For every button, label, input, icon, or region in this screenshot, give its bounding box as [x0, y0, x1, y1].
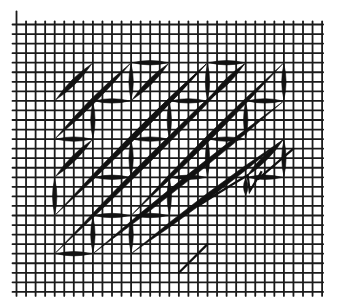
short-diagonal-stitch — [179, 244, 208, 273]
horizontal-stitch — [133, 137, 168, 141]
vertical-stitch — [282, 64, 286, 99]
horizontal-stitch — [56, 252, 91, 256]
stitch-layer — [53, 61, 294, 273]
horizontal-stitch — [94, 175, 129, 179]
stitch-diagram — [0, 0, 337, 307]
vertical-stitch — [91, 217, 95, 252]
horizontal-stitch — [171, 99, 206, 103]
vertical-stitch — [244, 179, 248, 195]
vertical-stitch — [129, 64, 133, 99]
horizontal-stitch — [247, 99, 282, 103]
vertical-stitch — [129, 141, 133, 176]
vertical-stitch — [167, 102, 171, 137]
horizontal-stitch — [56, 137, 91, 141]
vertical-stitch — [91, 102, 95, 137]
horizontal-stitch — [247, 175, 282, 179]
vertical-stitch — [53, 179, 57, 214]
vertical-stitch — [205, 64, 209, 99]
horizontal-stitch — [133, 61, 168, 65]
horizontal-stitch — [209, 61, 244, 65]
horizontal-stitch — [94, 99, 129, 103]
horizontal-stitch — [94, 213, 129, 217]
